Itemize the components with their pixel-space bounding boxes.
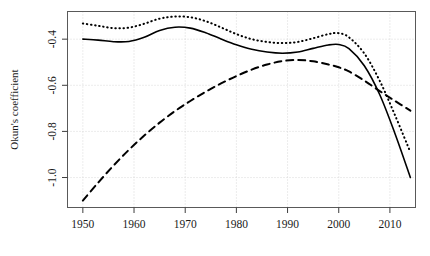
series-line-dotted	[83, 16, 411, 152]
plot-frame	[68, 12, 416, 208]
x-tick-label: 1970	[174, 218, 197, 230]
gridlines	[68, 12, 416, 208]
okuns-coefficient-chart: 1950196019701980199020002010 -0.4-0.6-0.…	[0, 0, 430, 256]
series-group	[83, 16, 411, 200]
y-tick-label: -0.4	[46, 30, 58, 48]
series-line-dashed	[83, 60, 411, 201]
x-tick-label: 2000	[327, 218, 350, 230]
chart-canvas: 1950196019701980199020002010 -0.4-0.6-0.…	[0, 0, 430, 256]
y-tick-label: -0.8	[46, 122, 58, 140]
x-tick-label: 2010	[378, 218, 401, 230]
y-tick-label: -1.0	[46, 168, 58, 186]
y-tick-label: -0.6	[46, 76, 58, 94]
x-tick-label: 1960	[123, 218, 146, 230]
x-tick-label: 1990	[276, 218, 299, 230]
x-axis-ticks: 1950196019701980199020002010	[71, 208, 401, 230]
y-axis-label: Okun's coefficient	[8, 69, 20, 149]
x-tick-label: 1980	[225, 218, 248, 230]
y-axis-ticks: -0.4-0.6-0.8-1.0	[46, 30, 68, 187]
x-tick-label: 1950	[71, 218, 94, 230]
